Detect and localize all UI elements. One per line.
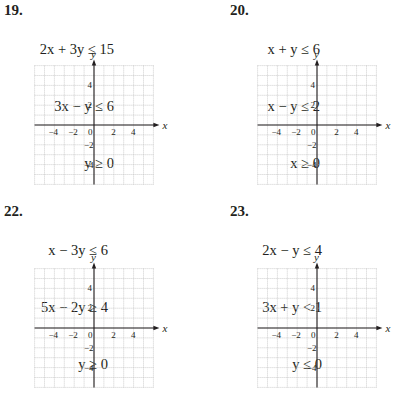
x-tick-label: −2	[68, 127, 78, 137]
x-axis-arrow-icon	[376, 326, 382, 330]
x-axis-arrow-icon	[153, 326, 159, 330]
y-axis-label: y	[90, 251, 96, 263]
y-tick-label: 4	[311, 80, 316, 90]
x-tick-label: −4	[271, 127, 281, 137]
y-axis-label: y	[313, 48, 319, 60]
x-tick-label: −2	[291, 127, 301, 137]
inequality-system: 2x + 3y ≤ 15 3x − y ≤ 6 y ≥ 0	[30, 2, 114, 211]
inequality-system: x − 3y ≤ 6 5x − 2y ≥ 4 y ≥ 0	[30, 203, 108, 405]
problem-number: 20.	[230, 2, 249, 19]
inequality-system: x + y ≤ 6 x − y ≤ 2 x ≥ 0	[250, 2, 320, 211]
y-tick-label: −4	[84, 160, 94, 170]
y-tick-label: 2	[311, 100, 316, 110]
inequality-2: 3x − y ≤ 6	[30, 97, 114, 116]
y-tick-label: 4	[88, 80, 93, 90]
inequality-2: x − y ≤ 2	[250, 97, 320, 116]
inequality-1: x + y ≤ 6	[250, 40, 320, 59]
y-tick-label: 2	[311, 303, 316, 313]
x-axis-label: x	[161, 322, 167, 334]
x-axis-label: x	[384, 322, 390, 334]
x-tick-label: 0	[311, 330, 316, 340]
y-axis-label: y	[90, 48, 96, 60]
inequality-1: 2x + 3y ≤ 15	[30, 40, 114, 59]
x-axis-label: x	[384, 119, 390, 131]
x-tick-label: 4	[354, 330, 359, 340]
y-tick-label: −4	[307, 160, 317, 170]
problem-number: 19.	[4, 2, 23, 19]
x-tick-label: 2	[111, 127, 116, 137]
x-tick-label: 4	[354, 127, 359, 137]
x-tick-label: −4	[48, 127, 58, 137]
x-tick-label: 0	[311, 127, 316, 137]
inequality-2: 5x − 2y ≥ 4	[30, 298, 108, 317]
y-tick-label: 4	[311, 283, 316, 293]
y-tick-label: −2	[307, 343, 317, 353]
x-tick-label: −2	[68, 330, 78, 340]
x-axis-arrow-icon	[376, 123, 382, 127]
x-tick-label: 2	[334, 127, 339, 137]
coordinate-grid-23: xy−4−202442−2−4	[0, 0, 1, 1]
x-axis-label: x	[161, 119, 167, 131]
x-tick-label: −4	[271, 330, 281, 340]
y-tick-label: −2	[307, 140, 317, 150]
problem-number: 22.	[4, 203, 23, 220]
y-tick-label: −2	[84, 343, 94, 353]
x-axis-arrow-icon	[153, 123, 159, 127]
problem-number: 23.	[230, 203, 249, 220]
x-tick-label: 0	[88, 330, 93, 340]
inequality-1: 2x − y ≤ 4	[250, 241, 322, 260]
y-tick-label: 2	[88, 100, 93, 110]
x-tick-label: 2	[334, 330, 339, 340]
x-tick-label: 2	[111, 330, 116, 340]
x-tick-label: 4	[131, 330, 136, 340]
y-tick-label: 2	[88, 303, 93, 313]
y-tick-label: −2	[84, 140, 94, 150]
inequality-1: x − 3y ≤ 6	[30, 241, 108, 260]
y-tick-label: 4	[88, 283, 93, 293]
y-tick-label: −4	[84, 363, 94, 373]
y-tick-label: −4	[307, 363, 317, 373]
x-tick-label: −4	[48, 330, 58, 340]
inequality-3: y ≥ 0	[30, 154, 114, 173]
x-tick-label: 0	[88, 127, 93, 137]
y-axis-label: y	[313, 251, 319, 263]
x-tick-label: −2	[291, 330, 301, 340]
x-tick-label: 4	[131, 127, 136, 137]
